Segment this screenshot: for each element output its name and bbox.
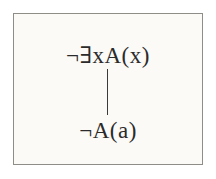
vertical-inference-line-icon [107, 69, 108, 115]
figure-box: ¬∃xA(x) ¬A(a) [13, 13, 203, 165]
conclusion-formula: ¬A(a) [14, 119, 206, 142]
proof-canvas: ¬∃xA(x) ¬A(a) [0, 0, 216, 179]
derivation-tree: ¬∃xA(x) ¬A(a) [14, 14, 202, 164]
premise-formula: ¬∃xA(x) [14, 44, 208, 67]
